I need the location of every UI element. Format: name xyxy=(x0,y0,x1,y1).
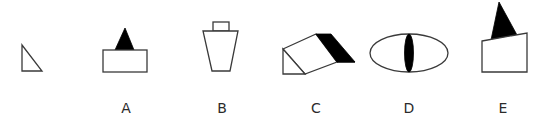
small-rectangle-shape xyxy=(213,22,229,31)
option-c[interactable]: C xyxy=(283,34,355,116)
black-lens-shape xyxy=(405,34,414,72)
option-label-d: D xyxy=(404,100,415,116)
figure-puzzle-canvas: A B C D E xyxy=(0,0,553,129)
black-triangle-shape xyxy=(115,28,134,50)
option-b[interactable]: B xyxy=(203,22,238,116)
option-label-b: B xyxy=(217,100,227,116)
option-label-a: A xyxy=(121,100,131,116)
option-a[interactable]: A xyxy=(103,28,147,116)
right-triangle-shape xyxy=(22,45,42,71)
slanted-quadrilateral-shape xyxy=(482,33,527,72)
option-label-c: C xyxy=(311,100,321,116)
option-label-e: E xyxy=(499,100,508,116)
trapezoid-shape xyxy=(203,31,238,71)
option-e[interactable]: E xyxy=(482,2,527,116)
question-figure xyxy=(22,45,42,71)
black-tall-triangle-shape xyxy=(491,2,517,40)
option-d[interactable]: D xyxy=(370,34,448,116)
rectangle-shape xyxy=(103,50,147,72)
